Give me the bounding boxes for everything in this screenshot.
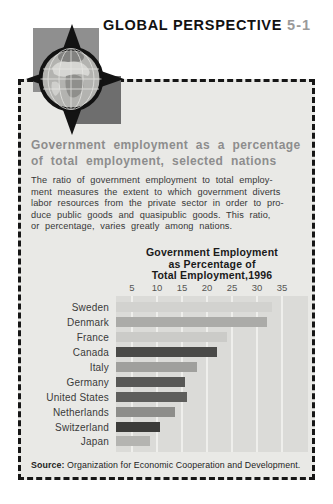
- body-line: The ratio of government employment to to…: [31, 175, 315, 187]
- bar-france: [116, 332, 227, 342]
- tick-label: 20: [202, 282, 213, 293]
- bar-japan: [116, 436, 150, 446]
- category-label-united-states: United States: [46, 392, 109, 403]
- plot-area: [116, 296, 308, 452]
- bar-denmark: [116, 317, 267, 327]
- bar-sweden: [116, 302, 272, 312]
- chart-title-line: Government Employment: [102, 247, 322, 259]
- body-line: ment measures the extent to which govern…: [31, 187, 315, 199]
- bar-united-states: [116, 392, 187, 402]
- bar-netherlands: [116, 407, 175, 417]
- category-label-canada: Canada: [73, 347, 109, 358]
- panel-heading-line: of total employment, selected nations: [31, 153, 309, 169]
- category-label-france: France: [77, 332, 109, 343]
- bar-united-states-germany: [116, 377, 185, 387]
- bar-chart: 5 10 15 20 25 30 35 Sweden Denmark Franc…: [21, 282, 312, 454]
- arrow-right-icon: [101, 71, 124, 87]
- category-label-switzerland: Switzerland: [55, 422, 109, 433]
- body-line: duce public goods and quasipublic goods.…: [31, 210, 315, 222]
- x-axis-ticks: 5 10 15 20 25 30 35: [116, 282, 308, 295]
- arrow-down-icon: [63, 110, 81, 135]
- body-line: or percentage, varies greatly among nati…: [31, 221, 315, 233]
- dashed-panel: Government employment as a percentage of…: [18, 79, 315, 480]
- source-line: Source: Organization for Economic Cooper…: [31, 460, 315, 470]
- source-text: Organization for Economic Cooperation an…: [64, 460, 300, 470]
- chart-title: Government Employment as Percentage of T…: [102, 247, 322, 282]
- tick-label: 25: [227, 282, 238, 293]
- globe-emblem: [14, 24, 128, 138]
- category-label-netherlands: Netherlands: [53, 407, 109, 418]
- figure-number: 5-1: [287, 17, 311, 33]
- category-label-italy: Italy: [90, 362, 109, 373]
- tick-label: 5: [129, 282, 134, 293]
- category-label-sweden: Sweden: [72, 302, 109, 313]
- tick-label: 30: [252, 282, 263, 293]
- body-line: labor resources from the private sector …: [31, 198, 315, 210]
- bar-canada: [116, 347, 217, 357]
- panel-heading: Government employment as a percentage of…: [31, 137, 309, 169]
- category-label-japan: Japan: [81, 436, 109, 447]
- category-label-denmark: Denmark: [67, 317, 109, 328]
- figure-title-text: GLOBAL PERSPECTIVE: [103, 17, 282, 33]
- tick-label: 10: [152, 282, 163, 293]
- tick-label: 35: [277, 282, 288, 293]
- bar-italy: [116, 362, 197, 372]
- category-label-germany: Germany: [66, 377, 109, 388]
- figure-page: GLOBAL PERSPECTIVE5-1 Government employm…: [0, 0, 333, 504]
- category-labels: Sweden Denmark France Canada Italy Germa…: [21, 296, 113, 452]
- gridline: [281, 296, 283, 452]
- chart-title-line: Total Employment,1996: [102, 270, 322, 282]
- panel-heading-line: Government employment as a percentage: [31, 137, 309, 153]
- tick-label: 15: [177, 282, 188, 293]
- bar-switzerland: [116, 422, 160, 432]
- globe-icon: [38, 46, 104, 112]
- figure-title: GLOBAL PERSPECTIVE5-1: [103, 17, 311, 33]
- source-label: Source:: [31, 460, 64, 470]
- panel-body-text: The ratio of government employment to to…: [31, 175, 315, 233]
